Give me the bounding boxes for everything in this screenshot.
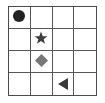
- cell-r1-c1[interactable]: [31, 29, 53, 51]
- cell-r2-c2[interactable]: [53, 51, 75, 73]
- cell-r3-c2[interactable]: [53, 73, 75, 95]
- cell-r0-c0[interactable]: [9, 7, 31, 29]
- cell-r1-c0[interactable]: [9, 29, 31, 51]
- cell-r0-c2[interactable]: [53, 7, 75, 29]
- diamond-icon[interactable]: [35, 52, 48, 71]
- cell-r0-c3[interactable]: [74, 7, 96, 29]
- triangle-left-icon[interactable]: [57, 75, 69, 94]
- cell-r1-c2[interactable]: [53, 29, 75, 51]
- cell-r2-c3[interactable]: [74, 51, 96, 73]
- cell-r2-c1[interactable]: [31, 51, 53, 73]
- cell-r1-c3[interactable]: [74, 29, 96, 51]
- cell-r2-c0[interactable]: [9, 51, 31, 73]
- cell-r3-c0[interactable]: [9, 73, 31, 95]
- circle-icon[interactable]: [12, 8, 26, 27]
- game-board: [8, 6, 97, 96]
- cell-r0-c1[interactable]: [31, 7, 53, 29]
- cell-r3-c3[interactable]: [74, 73, 96, 95]
- star-icon[interactable]: [34, 30, 48, 49]
- cell-r3-c1[interactable]: [31, 73, 53, 95]
